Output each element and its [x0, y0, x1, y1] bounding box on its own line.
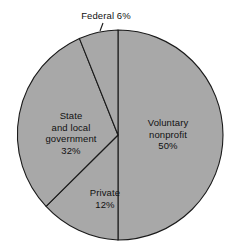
- pie-label-voluntary-nonprofit: Voluntary nonprofit 50%: [130, 117, 206, 152]
- pie-label-state-and-local-government: State and local government 32%: [30, 110, 112, 156]
- pie-label-federal: Federal 6%: [54, 10, 158, 22]
- federal-callout-leader-line: [100, 23, 103, 31]
- pie-label-private: Private 12%: [74, 187, 136, 210]
- pie-chart: Voluntary nonprofit 50% State and local …: [0, 0, 236, 252]
